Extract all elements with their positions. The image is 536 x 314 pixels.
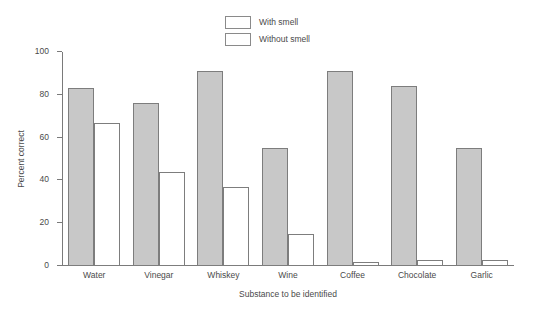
legend-item-with-smell: With smell xyxy=(225,16,310,29)
x-axis-category-label: Whiskey xyxy=(191,270,256,280)
x-axis-category-label: Wine xyxy=(256,270,321,280)
bar-garlic-without-smell xyxy=(482,260,508,266)
bar-chocolate-with-smell xyxy=(391,86,417,266)
bar-group: Garlic xyxy=(449,52,514,266)
bar-group: Wine xyxy=(256,52,321,266)
bar-group: Water xyxy=(62,52,127,266)
y-axis-tick-label: 40 xyxy=(40,174,49,184)
bar-chocolate-without-smell xyxy=(417,260,443,266)
y-axis-title: Percent correct xyxy=(16,52,28,266)
legend-item-without-smell: Without smell xyxy=(225,33,310,46)
x-axis-title: Substance to be identified xyxy=(62,289,514,299)
bar-chart-figure: With smell Without smell Percent correct… xyxy=(0,0,536,314)
legend-swatch-without-smell xyxy=(225,33,251,46)
y-axis-tick-label: 20 xyxy=(40,217,49,227)
legend-label-without-smell: Without smell xyxy=(259,33,310,46)
bar-garlic-with-smell xyxy=(456,148,482,266)
x-axis-category-label: Coffee xyxy=(320,270,385,280)
plot-area: 020406080100 WaterVinegarWhiskeyWineCoff… xyxy=(62,52,514,266)
chart-legend: With smell Without smell xyxy=(225,16,310,46)
bar-group: Vinegar xyxy=(127,52,192,266)
bar-vinegar-with-smell xyxy=(133,103,159,266)
y-axis-tick-label: 0 xyxy=(44,260,49,270)
bar-whiskey-without-smell xyxy=(223,187,249,266)
bar-vinegar-without-smell xyxy=(159,172,185,266)
bar-group: Coffee xyxy=(320,52,385,266)
x-axis-category-label: Water xyxy=(62,270,127,280)
bar-group: Chocolate xyxy=(385,52,450,266)
y-axis-tick-label: 100 xyxy=(35,46,49,56)
bar-water-with-smell xyxy=(68,88,94,266)
legend-swatch-with-smell xyxy=(225,16,251,29)
y-axis-tick-label: 60 xyxy=(40,132,49,142)
bar-coffee-with-smell xyxy=(327,71,353,266)
x-axis-category-label: Garlic xyxy=(449,270,514,280)
x-axis-category-label: Vinegar xyxy=(127,270,192,280)
bar-whiskey-with-smell xyxy=(197,71,223,266)
bar-wine-with-smell xyxy=(262,148,288,266)
bar-group: Whiskey xyxy=(191,52,256,266)
y-axis-tick-label: 80 xyxy=(40,89,49,99)
x-axis-category-label: Chocolate xyxy=(385,270,450,280)
bar-wine-without-smell xyxy=(288,234,314,266)
bar-water-without-smell xyxy=(94,123,120,266)
bar-coffee-without-smell xyxy=(353,262,379,266)
legend-label-with-smell: With smell xyxy=(259,16,298,29)
